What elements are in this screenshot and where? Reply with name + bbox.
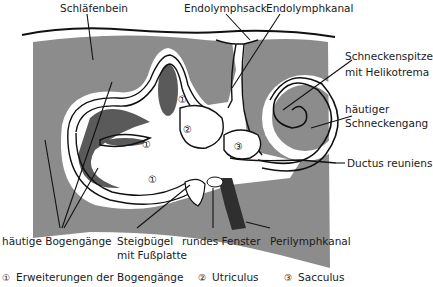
label-perilymphkanal: Perilymphkanal (270, 235, 351, 247)
marker-1-mid: ① (142, 139, 151, 150)
label-schneckenspitze: Schneckenspitze (345, 50, 433, 62)
marker-2: ② (183, 124, 192, 135)
label-helikotrema: mit Helikotrema (345, 66, 429, 78)
legend-item-1: ①Erweiterungen der Bogengänge (2, 271, 183, 283)
label-endolymphkanal: Endolymphkanal (266, 2, 353, 14)
marker-1-bottom: ① (148, 174, 157, 185)
legend-item-2: ②Utriculus (198, 271, 259, 283)
round-window (207, 177, 223, 187)
marker-3: ③ (234, 141, 243, 152)
label-fussplatte: mit Fußplatte (117, 249, 187, 261)
marker-1-top: ① (178, 94, 187, 105)
label-rundes-fenster: rundes Fenster (182, 235, 261, 247)
label-endolymphsack: Endolymphsack (184, 2, 267, 14)
label-schneckengang: Schneckengang (345, 117, 428, 129)
legend-item-3: ③Sacculus (284, 271, 344, 283)
skull-contour-line (22, 28, 335, 37)
label-haeutiger: häutiger (345, 103, 389, 115)
label-bogengaenge: häutige Bogengänge (2, 235, 112, 247)
label-schlaefenbein: Schläfenbein (60, 2, 128, 14)
label-ductus-reuniens: Ductus reuniens (347, 157, 432, 169)
label-steigbuegel: Steigbügel (117, 235, 173, 247)
